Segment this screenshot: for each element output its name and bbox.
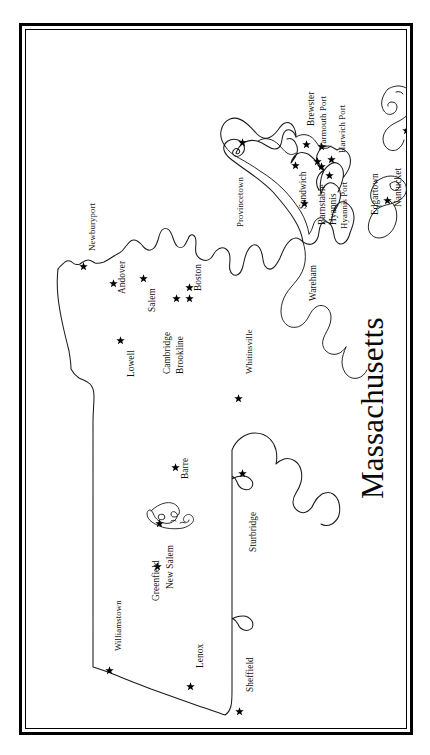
city-label-greenfield: Greenfield xyxy=(151,560,161,601)
city-label-new-salem: New Salem xyxy=(165,545,175,589)
star-marker-sturbridge[interactable] xyxy=(238,469,247,478)
city-label-edgartown: Edgartown xyxy=(370,173,380,215)
star-marker-provincetown[interactable] xyxy=(238,138,247,147)
city-label-cambridge: Cambridge xyxy=(162,332,172,374)
star-marker-hyannis-port[interactable] xyxy=(325,171,334,180)
star-marker-sandwich[interactable] xyxy=(291,161,300,170)
city-label-lenox: Lenox xyxy=(195,644,205,668)
city-label-whitinsville: Whitinsville xyxy=(244,329,254,374)
map-page: Massachusetts NewburyportAndoverSalemLow… xyxy=(0,0,430,755)
nantucket-outline xyxy=(382,86,407,151)
star-marker-lenox[interactable] xyxy=(186,682,195,691)
city-label-brewster: Brewster xyxy=(306,92,316,126)
city-label-salem: Salem xyxy=(147,288,157,312)
star-marker-edgartown[interactable] xyxy=(383,196,392,205)
city-label-lowell: Lowell xyxy=(126,350,136,377)
city-label-barnstable: Barnstable xyxy=(317,184,327,225)
star-marker-barre[interactable] xyxy=(171,463,180,472)
map-canvas: Massachusetts NewburyportAndoverSalemLow… xyxy=(25,29,407,729)
star-marker-newburyport[interactable] xyxy=(79,262,88,271)
city-label-boston: Boston xyxy=(193,264,203,291)
star-marker-lowell[interactable] xyxy=(116,336,125,345)
star-marker-whitinsville[interactable] xyxy=(234,394,243,403)
city-label-hyannis-port: Hyannis Port xyxy=(339,182,349,229)
quabbin-reservoir xyxy=(147,503,194,529)
star-marker-harwich-port[interactable] xyxy=(327,155,336,164)
city-label-barre: Barre xyxy=(180,458,190,479)
city-label-wareham: Wareham xyxy=(308,265,318,301)
city-label-nantucket: Nantucket xyxy=(393,168,403,207)
city-label-brookline: Brookline xyxy=(175,336,185,374)
city-label-sheffield: Sheffield xyxy=(245,657,255,692)
city-label-provincetown: Provincetown xyxy=(235,177,245,227)
star-marker-nantucket[interactable] xyxy=(402,126,407,135)
star-marker-brookline[interactable] xyxy=(185,294,194,303)
state-title: Massachusetts xyxy=(355,317,391,499)
city-label-newburyport: Newburyport xyxy=(87,203,97,251)
star-marker-sheffield[interactable] xyxy=(235,707,244,716)
cape-cod-bay xyxy=(258,139,296,155)
star-marker-wareham[interactable] xyxy=(300,199,309,208)
star-marker-brewster[interactable] xyxy=(302,140,311,149)
city-label-hyannis: Hyannis xyxy=(328,193,338,225)
massachusetts-outline xyxy=(25,29,407,729)
star-marker-salem[interactable] xyxy=(139,274,148,283)
star-marker-cambridge[interactable] xyxy=(172,294,181,303)
city-label-harwich-port: Harwich Port xyxy=(337,105,347,153)
city-label-williamstown: Williamstown xyxy=(113,600,123,651)
city-label-sturbridge: Sturbridge xyxy=(248,512,258,552)
star-marker-williamstown[interactable] xyxy=(105,666,114,675)
star-marker-new-salem[interactable] xyxy=(155,519,164,528)
star-marker-hyannis[interactable] xyxy=(317,162,326,171)
city-label-yarmouth-port: Yarmouth Port xyxy=(318,96,328,149)
city-label-andover: Andover xyxy=(117,261,127,294)
